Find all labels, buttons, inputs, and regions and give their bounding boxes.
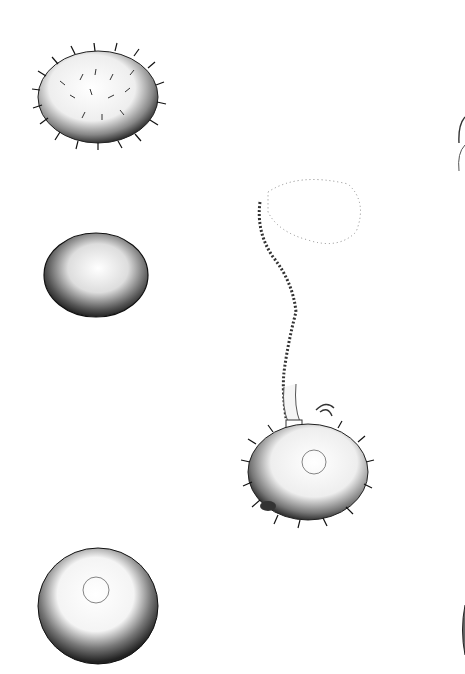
spiny-pollen-grain: Spiny pollen grain [30, 40, 170, 150]
engraving-plate: Spiny pollen grain [0, 0, 465, 674]
smooth-pollen-grain: Smooth pollen grain with pore [36, 540, 160, 666]
partial-pollen-grain-bottom-right: Partially visible grain at right edge [460, 605, 465, 655]
granular-pollen-grain: Granular smooth pollen grain [42, 230, 152, 320]
germinating-pollen-grain: Spiny pollen grain emitting pollen tube [238, 172, 378, 532]
partial-pollen-grain-top-right: Partially visible grain at right edge [455, 115, 465, 175]
